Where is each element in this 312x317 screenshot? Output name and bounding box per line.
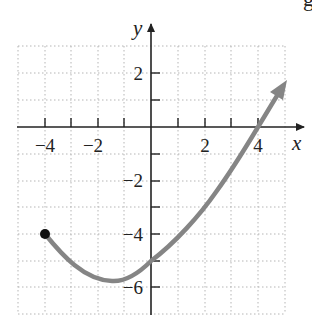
axes <box>17 24 304 315</box>
y-tick-label: −4 <box>123 224 144 245</box>
x-tick-label: 4 <box>253 135 263 156</box>
y-axis-label: y <box>131 16 143 40</box>
x-tick-label: −4 <box>35 135 56 156</box>
x-tick-label: −2 <box>83 135 103 156</box>
y-tick-label: 2 <box>134 63 144 84</box>
function-graph: −4 −2 2 4 2 −2 −4 −6 x y <box>0 0 312 317</box>
x-tick-label: 2 <box>200 135 210 156</box>
y-tick-label: −2 <box>123 170 143 191</box>
x-axis-label: x <box>291 131 302 155</box>
curve-arrowhead <box>270 80 287 100</box>
closed-endpoint <box>40 229 50 239</box>
